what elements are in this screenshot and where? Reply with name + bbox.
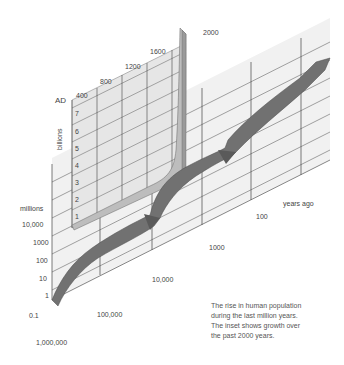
inset-x-tick: 1600 (150, 48, 166, 55)
caption-line: the past 2000 years. (211, 331, 331, 341)
main-x-tick: 100,000 (97, 311, 122, 318)
main-y-tick: 10 (39, 275, 47, 282)
inset-x-axis-title: AD (55, 96, 66, 105)
inset-y-tick: 2 (75, 196, 79, 203)
caption-line: The inset shows growth over (211, 321, 331, 331)
main-y-tick: 1000 (33, 239, 49, 246)
main-y-tick: 1 (45, 292, 49, 299)
main-y-tick: 10,000 (22, 221, 43, 228)
inset-y-tick: 6 (75, 128, 79, 135)
inset-y-tick: 7 (75, 110, 79, 117)
caption-line: during the last million years. (211, 311, 331, 321)
main-y-tick: 0.1 (29, 312, 39, 319)
inset-x-tick: 2000 (203, 29, 219, 36)
chart-caption: The rise in human population during the … (211, 301, 331, 341)
inset-y-axis-title: billions (56, 129, 63, 150)
inset-y-tick: 5 (75, 145, 79, 152)
caption-line: The rise in human population (211, 301, 331, 311)
inset-y-tick: 1 (75, 213, 79, 220)
inset-x-tick: 1200 (125, 63, 141, 70)
inset-x-tick: 400 (76, 92, 88, 99)
inset-y-tick: 4 (75, 162, 79, 169)
inset-y-tick: 3 (75, 179, 79, 186)
main-x-tick: 1,000,000 (36, 339, 67, 346)
inset-x-tick: 800 (100, 78, 112, 85)
main-x-tick: 10,000 (152, 276, 173, 283)
main-y-tick: 100 (36, 257, 48, 264)
main-x-axis-title: years ago (283, 200, 314, 207)
main-x-tick: 1000 (209, 244, 225, 251)
main-x-tick: 100 (256, 213, 268, 220)
main-y-axis-title: millions (20, 205, 43, 212)
